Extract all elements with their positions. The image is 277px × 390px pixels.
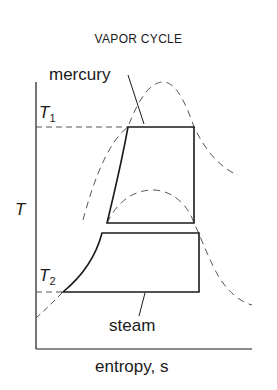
t2-label-main: T bbox=[39, 266, 49, 285]
t2-label-sub: 2 bbox=[49, 275, 55, 287]
steam-cycle bbox=[63, 233, 199, 292]
t2-label: T2 bbox=[39, 266, 56, 287]
mercury-leader-line bbox=[128, 75, 144, 124]
mercury-cycle bbox=[107, 127, 194, 223]
t1-label-main: T bbox=[39, 103, 49, 122]
t1-label: T1 bbox=[39, 103, 56, 124]
steam-dome-left-tail bbox=[36, 292, 63, 318]
mercury-saturation-dome bbox=[83, 82, 238, 220]
steam-label: steam bbox=[109, 316, 155, 336]
y-axis-label: T bbox=[15, 200, 25, 220]
t1-label-sub: 1 bbox=[49, 112, 55, 124]
steam-leader-line bbox=[139, 293, 145, 316]
steam-saturation-dome bbox=[107, 190, 252, 305]
x-axis-label: entropy, s bbox=[95, 357, 168, 377]
mercury-label: mercury bbox=[49, 65, 110, 85]
